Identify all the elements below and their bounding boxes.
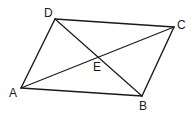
vertex-label-d: D (44, 6, 53, 20)
vertex-label-b: B (139, 99, 147, 113)
vertex-label-c: C (177, 18, 186, 32)
diagonal-bd (55, 19, 142, 96)
parallelogram-diagram: A B C D E (0, 0, 192, 115)
vertex-label-a: A (9, 86, 17, 100)
side-da (21, 19, 55, 88)
side-ab (21, 88, 142, 96)
diagonal-ac (21, 27, 174, 88)
side-cd (55, 19, 174, 27)
intersection-label-e: E (93, 60, 101, 74)
